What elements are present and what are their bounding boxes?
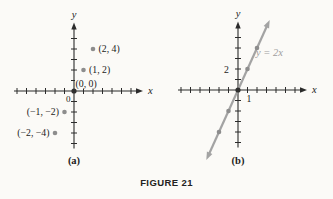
y-axis-number: 2 bbox=[224, 64, 229, 75]
data-point-(2,4) bbox=[91, 47, 96, 52]
y-axis-arrow-icon bbox=[235, 22, 240, 29]
line-arrow-icon bbox=[264, 20, 270, 29]
origin-label: 0 bbox=[66, 94, 71, 104]
point-label: (−2, −4) bbox=[17, 127, 49, 139]
y-axis-letter: y bbox=[71, 9, 77, 20]
data-point-(1,2) bbox=[245, 67, 250, 72]
data-point-(-1,-2) bbox=[62, 110, 67, 115]
y-axis-letter: y bbox=[235, 8, 241, 19]
figure-21: xy(−2, −4)(−1, −2)(0, 0)(1, 2)(2, 4)0xy2… bbox=[0, 0, 333, 199]
figure-plot: xy(−2, −4)(−1, −2)(0, 0)(1, 2)(2, 4)0xy2… bbox=[0, 0, 333, 199]
x-axis-letter: x bbox=[311, 84, 317, 95]
x-axis-letter: x bbox=[147, 85, 153, 96]
equation-label: y = 2x bbox=[255, 47, 283, 58]
figure-caption: FIGURE 21 bbox=[0, 177, 333, 188]
point-label: (0, 0) bbox=[76, 78, 97, 90]
data-point-(1,2) bbox=[81, 68, 86, 73]
point-label: (2, 4) bbox=[99, 43, 120, 55]
panel-b-label: (b) bbox=[198, 155, 278, 166]
y-axis-arrow-icon bbox=[71, 23, 76, 30]
panel-a: xy(−2, −4)(−1, −2)(0, 0)(1, 2)(2, 4)0 bbox=[14, 9, 153, 149]
panel-b: xy21y = 2x bbox=[178, 8, 317, 161]
x-axis-arrow-icon bbox=[136, 88, 143, 93]
x-axis-arrow-icon bbox=[300, 87, 307, 92]
point-label: (−1, −2) bbox=[27, 106, 59, 118]
panel-a-label: (a) bbox=[34, 155, 114, 166]
data-point-(-2,-4) bbox=[53, 131, 58, 136]
data-point-(0,0) bbox=[235, 87, 240, 92]
data-point-(-1,-2) bbox=[226, 109, 231, 114]
x-axis-number: 1 bbox=[247, 93, 252, 104]
point-label: (1, 2) bbox=[89, 64, 110, 76]
data-point-(-2,-4) bbox=[217, 130, 222, 135]
